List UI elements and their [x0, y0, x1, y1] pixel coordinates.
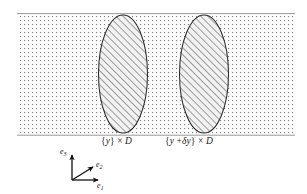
- section-label-right: {y +δy} × D: [165, 137, 213, 147]
- axis-label-e2: e2: [96, 161, 103, 169]
- figure-canvas: [0, 0, 307, 194]
- left-close-brace: }: [110, 136, 115, 146]
- right-variable: y: [170, 136, 174, 146]
- axis-label-e3-sub: 3: [64, 151, 67, 157]
- right-times-symbol: ×: [198, 136, 203, 146]
- right-close-brace: }: [191, 136, 196, 146]
- coordinate-triad: [72, 155, 98, 180]
- left-domain-symbol: D: [125, 136, 132, 146]
- stippled-slab: [17, 14, 295, 136]
- axis-label-e1: e1: [97, 182, 104, 190]
- cross-section-ellipse-left: [99, 15, 148, 133]
- axis-label-e3: e3: [60, 148, 67, 156]
- axis-label-e1-sub: 1: [101, 185, 104, 191]
- axis-label-e2-sub: 2: [100, 164, 103, 170]
- left-times-symbol: ×: [117, 136, 122, 146]
- section-label-left: {y} × D: [101, 137, 132, 147]
- cross-section-ellipse-right: [180, 15, 229, 133]
- right-domain-symbol: D: [206, 136, 213, 146]
- axis-arrow-e2: [72, 167, 93, 180]
- figure-container: {y} × D {y +δy} × D e3 e2 e1: [0, 0, 307, 194]
